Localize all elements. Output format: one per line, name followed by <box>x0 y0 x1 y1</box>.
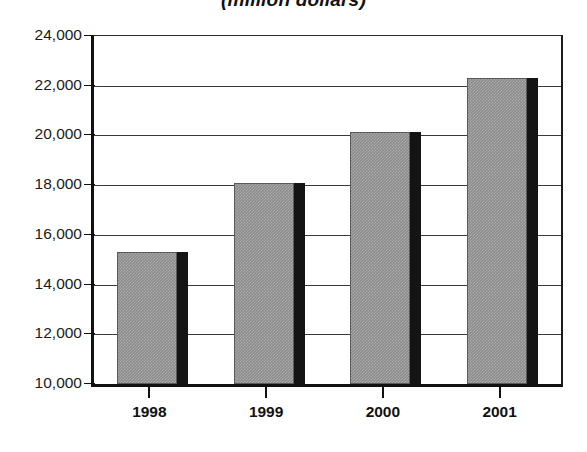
bar-shadow <box>527 78 538 384</box>
y-axis-tick-mark <box>84 134 95 135</box>
bar <box>234 183 294 384</box>
y-axis-tick-mark <box>84 383 95 384</box>
x-axis-tick-mark <box>148 386 150 398</box>
bar-group <box>350 36 421 384</box>
chart-title: (million dollars) <box>0 0 587 11</box>
y-axis-tick-label: 18,000 <box>8 175 82 193</box>
bar-shadow <box>294 183 305 384</box>
y-axis-tick-label: 16,000 <box>8 225 82 243</box>
bar-group <box>234 36 305 384</box>
x-axis-tick-label: 2000 <box>323 403 443 421</box>
y-axis-tick-label: 24,000 <box>8 26 82 44</box>
bar <box>350 132 410 384</box>
y-axis-tick-mark <box>84 234 95 235</box>
bar <box>117 252 177 384</box>
bar-group <box>467 36 538 384</box>
y-axis-tick-label: 12,000 <box>8 324 82 342</box>
x-axis-tick-mark <box>265 386 267 398</box>
y-axis-tick-label: 20,000 <box>8 125 82 143</box>
x-axis-tick-label: 2001 <box>440 403 560 421</box>
bar-group <box>117 36 188 384</box>
bar <box>467 78 527 384</box>
x-axis-tick-mark <box>499 386 501 398</box>
bar-shadow <box>177 252 188 384</box>
y-axis: 24,00022,00020,00018,00016,00014,00012,0… <box>0 0 82 452</box>
bar-chart-figure: (million dollars) 24,00022,00020,00018,0… <box>0 0 587 452</box>
bar-shadow <box>410 132 421 384</box>
y-axis-tick-mark <box>84 85 95 86</box>
y-axis-tick-mark <box>84 333 95 334</box>
x-axis-tick-label: 1999 <box>206 403 326 421</box>
y-axis-tick-mark <box>84 35 95 36</box>
y-axis-tick-label: 10,000 <box>8 374 82 392</box>
y-axis-tick-mark <box>84 184 95 185</box>
plot-area <box>91 35 563 387</box>
y-axis-tick-label: 22,000 <box>8 76 82 94</box>
x-axis-tick-label: 1998 <box>89 403 209 421</box>
y-axis-tick-mark <box>84 284 95 285</box>
x-axis-tick-mark <box>382 386 384 398</box>
y-axis-tick-label: 14,000 <box>8 275 82 293</box>
